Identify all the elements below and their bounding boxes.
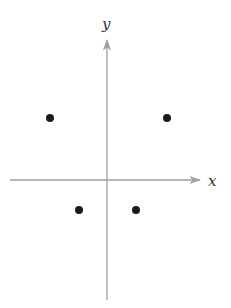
coordinate-plane: x y	[0, 0, 231, 308]
data-point	[75, 206, 83, 214]
data-point	[132, 206, 140, 214]
data-point	[46, 114, 54, 122]
data-points	[46, 114, 171, 214]
y-axis-label: y	[101, 15, 111, 33]
x-axis-label: x	[208, 172, 217, 190]
data-point	[163, 114, 171, 122]
